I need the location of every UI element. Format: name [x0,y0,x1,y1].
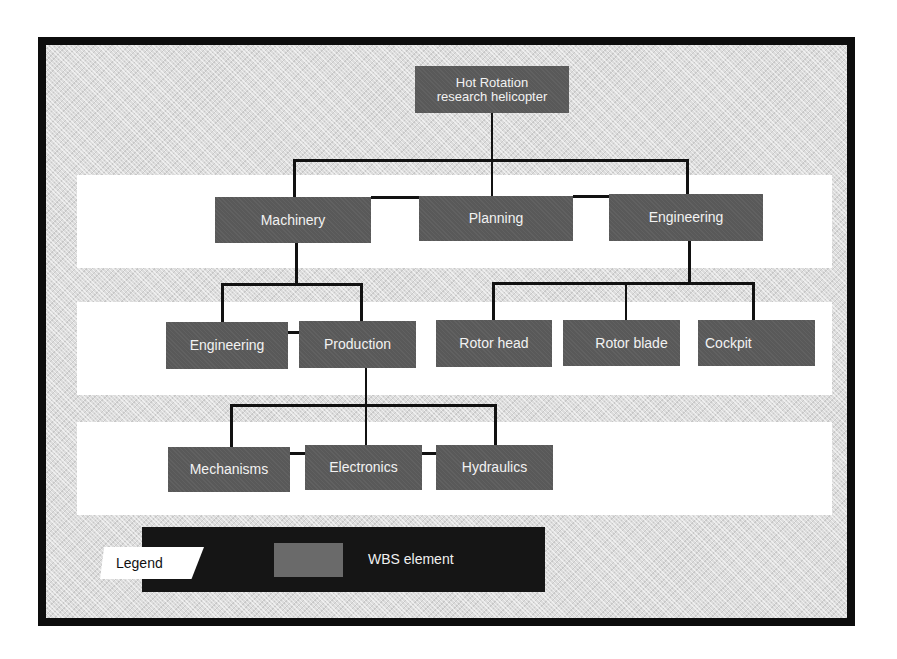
wbs-node-hydraulics[interactable]: Hydraulics [436,445,553,490]
wbs-node-planning[interactable]: Planning [419,196,573,241]
root-label-line1: Hot Rotation [456,76,528,90]
connector [295,243,298,285]
node-label: Rotor blade [595,336,667,351]
connector [492,282,495,320]
wbs-node-mechanisms[interactable]: Mechanisms [168,447,290,492]
connector [230,404,233,447]
node-label: Mechanisms [190,462,269,477]
wbs-node-machinery-engineering[interactable]: Engineering [166,322,288,369]
connector [573,195,609,198]
node-label: Engineering [649,210,724,225]
node-label: Rotor head [459,336,528,351]
connector [688,241,691,284]
wbs-node-engineering[interactable]: Engineering [609,194,763,241]
connector [494,404,497,445]
connector [752,282,755,320]
connector [491,113,493,197]
wbs-node-root[interactable]: Hot Rotation research helicopter [415,66,569,113]
wbs-node-rotor-blade[interactable]: Rotor blade [563,320,680,366]
connector [293,159,688,162]
legend-item-label: WBS element [368,551,454,567]
node-label: Machinery [261,213,326,228]
legend-title: Legend [100,547,204,579]
node-label: Production [324,337,391,352]
connector [360,283,363,321]
wbs-node-production[interactable]: Production [299,321,416,368]
connector [293,159,296,197]
legend-title-text: Legend [116,555,163,571]
connector [686,159,689,195]
connector [290,452,305,455]
node-label: Planning [469,211,524,226]
legend-swatch-wbs-element [274,543,343,577]
connector [221,283,224,322]
node-label: Electronics [329,460,397,475]
node-label: Hydraulics [462,460,527,475]
wbs-node-machinery[interactable]: Machinery [215,197,371,243]
connector [422,452,436,455]
legend-bar [142,527,545,592]
connector [625,282,627,320]
node-label: Cockpit [705,336,752,351]
node-label: Engineering [190,338,265,353]
root-label-line2: research helicopter [437,90,548,104]
connector [288,331,299,334]
wbs-node-electronics[interactable]: Electronics [305,445,422,490]
connector [230,404,497,407]
connector [221,283,363,286]
connector [492,282,755,285]
connector [371,196,419,199]
wbs-node-cockpit[interactable]: Cockpit [698,320,815,366]
wbs-node-rotor-head[interactable]: Rotor head [436,320,552,367]
